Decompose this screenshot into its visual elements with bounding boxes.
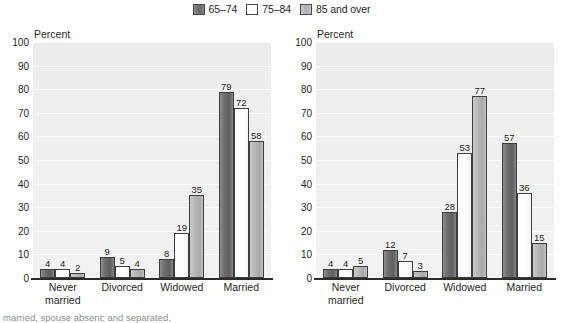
bar-value-label: 28	[444, 201, 455, 212]
x-axis-category-label: Nevermarried	[328, 281, 364, 306]
bar: 36	[517, 193, 532, 278]
chart-footnote: married, spouse absent; and separated.	[3, 312, 559, 323]
bar-value-label: 7	[403, 250, 408, 261]
chart-legend: 65–7475–8485 and over	[0, 1, 563, 17]
chart-panel-men: Percent Men 1009080706050403020100 44295…	[2, 28, 274, 313]
y-axis-tick-label: 60	[301, 131, 312, 142]
y-axis-tick-label: 70	[301, 107, 312, 118]
bar-value-label: 4	[60, 258, 65, 269]
bar: 5	[115, 266, 130, 278]
legend-swatch-65-74-icon	[193, 4, 205, 15]
bar-value-label: 12	[385, 239, 396, 250]
legend-entry: 75–84	[246, 3, 291, 15]
bar: 15	[532, 243, 547, 278]
x-axis-category-label: Married	[223, 281, 259, 294]
bar-value-label: 19	[176, 222, 187, 233]
bar-group: 81935	[159, 42, 204, 278]
x-axis-line-women	[314, 278, 556, 280]
y-axis-tick-label: 50	[18, 155, 29, 166]
bar: 72	[234, 108, 249, 278]
y-axis-tick-label: 0	[23, 273, 29, 284]
y-axis-tick-label: 60	[18, 131, 29, 142]
bar-value-label: 9	[105, 246, 110, 257]
y-axis-tick-label: 0	[306, 273, 312, 284]
bar-value-label: 57	[504, 132, 515, 143]
legend-swatch-85-over-icon	[300, 4, 312, 15]
bar: 12	[383, 250, 398, 278]
y-axis-unit-label-men: Percent	[34, 28, 70, 40]
y-axis-tick-label: 20	[18, 225, 29, 236]
bar-value-label: 3	[418, 260, 423, 271]
bar-group: 954	[100, 42, 145, 278]
bar: 4	[40, 269, 55, 278]
bar-value-label: 15	[534, 232, 545, 243]
bar-value-label: 5	[120, 255, 125, 266]
y-axis-tick-label: 10	[18, 249, 29, 260]
bar: 8	[159, 259, 174, 278]
legend-label: 85 and over	[316, 3, 370, 15]
legend-entry: 65–74	[193, 3, 238, 15]
bars-layer-men: 44295481935797258	[33, 42, 271, 278]
bar-group: 445	[323, 42, 368, 278]
legend-swatch-75-84-icon	[246, 4, 258, 15]
bar-value-label: 77	[474, 85, 485, 96]
x-axis-category-label: Divorced	[102, 281, 143, 294]
bar-value-label: 2	[75, 262, 80, 273]
y-axis-tick-label: 50	[301, 155, 312, 166]
bar-value-label: 8	[164, 248, 169, 259]
bar-group: 285377	[442, 42, 487, 278]
x-axis-category-label: Divorced	[385, 281, 426, 294]
bars-layer-women: 4451273285377573615	[316, 42, 554, 278]
bar: 35	[189, 195, 204, 278]
x-axis-category-label: Married	[506, 281, 542, 294]
y-axis-tick-label: 90	[18, 60, 29, 71]
bar: 79	[219, 92, 234, 278]
bar-value-label: 4	[135, 258, 140, 269]
bar-value-label: 53	[459, 142, 470, 153]
bar-value-label: 5	[358, 255, 363, 266]
bar: 28	[442, 212, 457, 278]
y-axis-unit-label-women: Percent	[317, 28, 353, 40]
y-axis-tick-label: 100	[12, 37, 29, 48]
legend-label: 75–84	[262, 3, 291, 15]
bar: 4	[130, 269, 145, 278]
bar: 19	[174, 233, 189, 278]
x-axis-category-label: Nevermarried	[45, 281, 81, 306]
bar-value-label: 36	[519, 182, 530, 193]
bar-group: 573615	[502, 42, 547, 278]
bar-value-label: 4	[328, 258, 333, 269]
x-axis-labels-men: NevermarriedDivorcedWidowedMarried	[33, 281, 271, 313]
y-axis-tick-label: 10	[301, 249, 312, 260]
bar: 4	[323, 269, 338, 278]
y-axis-tick-label: 40	[18, 178, 29, 189]
chart-panel-women: Percent Women 1009080706050403020100 445…	[285, 28, 557, 313]
x-axis-category-label: Widowed	[443, 281, 486, 294]
legend-entry: 85 and over	[300, 3, 370, 15]
bar-group: 1273	[383, 42, 428, 278]
y-axis-tick-label: 30	[301, 202, 312, 213]
y-axis-tick-label: 20	[301, 225, 312, 236]
bar: 4	[338, 269, 353, 278]
bar: 5	[353, 266, 368, 278]
bar: 7	[398, 261, 413, 278]
bar: 4	[55, 269, 70, 278]
bar: 58	[249, 141, 264, 278]
y-axis-tick-label: 70	[18, 107, 29, 118]
y-axis-tick-label: 30	[18, 202, 29, 213]
x-axis-line-men	[31, 278, 273, 280]
y-axis-tick-label: 80	[18, 84, 29, 95]
legend-label: 65–74	[209, 3, 238, 15]
bar-value-label: 4	[343, 258, 348, 269]
bar: 57	[502, 143, 517, 278]
bar: 2	[70, 273, 85, 278]
x-axis-category-label: Widowed	[160, 281, 203, 294]
bar-group: 797258	[219, 42, 264, 278]
y-axis-tick-label: 40	[301, 178, 312, 189]
y-axis-tick-label: 80	[301, 84, 312, 95]
bar-value-label: 72	[236, 97, 247, 108]
bar-value-label: 35	[191, 184, 202, 195]
bar-value-label: 58	[251, 130, 262, 141]
bar-value-label: 4	[45, 258, 50, 269]
bar: 9	[100, 257, 115, 278]
x-axis-labels-women: NevermarriedDivorcedWidowedMarried	[316, 281, 554, 313]
